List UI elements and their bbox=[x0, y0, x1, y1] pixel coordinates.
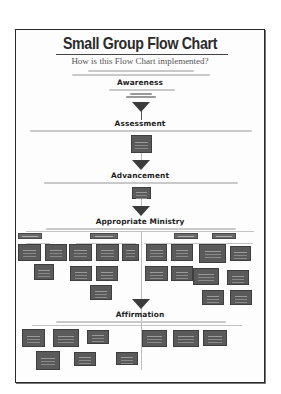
affirmation-box bbox=[173, 330, 199, 347]
flow-chart-poster: Small Group Flow Chart How is this Flow … bbox=[15, 29, 265, 383]
funnel-arrow-icon bbox=[132, 206, 150, 216]
ministry-box bbox=[69, 244, 92, 261]
ministry-box bbox=[96, 244, 119, 261]
advancement-description bbox=[44, 182, 238, 184]
stage-assessment-heading: Assessment bbox=[16, 119, 264, 128]
funnel-arrow-icon bbox=[132, 299, 150, 309]
awareness-caption bbox=[130, 93, 152, 95]
ministry-category-header bbox=[174, 233, 198, 239]
funnel-arrow-icon bbox=[132, 160, 150, 170]
ministry-box bbox=[193, 268, 219, 285]
assessment-box bbox=[131, 135, 152, 153]
affirmation-box bbox=[22, 329, 45, 347]
stage-advancement-heading: Advancement bbox=[16, 171, 264, 180]
affirmation-box bbox=[116, 352, 138, 365]
ministry-box bbox=[171, 266, 193, 281]
ministry-box bbox=[171, 244, 193, 261]
assessment-description bbox=[30, 130, 252, 132]
affirmation-box bbox=[87, 330, 109, 344]
poster-title: Small Group Flow Chart bbox=[33, 34, 246, 53]
ministry-box bbox=[34, 264, 54, 280]
ministry-box bbox=[90, 285, 112, 300]
intro-text-line bbox=[88, 70, 194, 72]
ministry-box bbox=[145, 266, 168, 281]
stage-awareness-heading: Awareness bbox=[16, 78, 264, 87]
ministry-box bbox=[230, 246, 251, 261]
affirmation-branch-line bbox=[32, 325, 242, 326]
ministry-box bbox=[96, 266, 118, 281]
ministry-category-header bbox=[212, 233, 236, 239]
advancement-box bbox=[132, 187, 151, 199]
affirmation-description bbox=[56, 321, 226, 323]
stage-appropriate-ministry-heading: Appropriate Ministry bbox=[16, 217, 264, 226]
ministry-box bbox=[202, 290, 224, 305]
ministry-description bbox=[46, 228, 236, 230]
awareness-description bbox=[109, 89, 175, 91]
affirmation-box bbox=[142, 330, 167, 347]
ministry-box bbox=[70, 266, 92, 281]
ministry-category-header bbox=[18, 233, 42, 239]
affirmation-box bbox=[74, 352, 96, 366]
ministry-box bbox=[227, 270, 249, 285]
intro-text-line bbox=[72, 74, 210, 76]
ministry-box bbox=[18, 244, 41, 261]
ministry-box bbox=[146, 244, 167, 261]
affirmation-box bbox=[53, 329, 79, 347]
ministry-box bbox=[122, 244, 139, 261]
ministry-category-header bbox=[90, 233, 118, 239]
poster-subtitle: How is this Flow Chart implemented? bbox=[16, 56, 264, 66]
title-divider bbox=[56, 54, 228, 55]
ministry-box bbox=[230, 290, 252, 305]
affirmation-box bbox=[36, 351, 60, 370]
affirmation-box bbox=[203, 330, 227, 346]
ministry-branch-line bbox=[26, 231, 254, 232]
awareness-caption bbox=[126, 96, 156, 98]
ministry-box bbox=[45, 244, 67, 261]
ministry-box bbox=[199, 244, 226, 263]
stage-affirmation-heading: Affirmation bbox=[16, 310, 264, 319]
